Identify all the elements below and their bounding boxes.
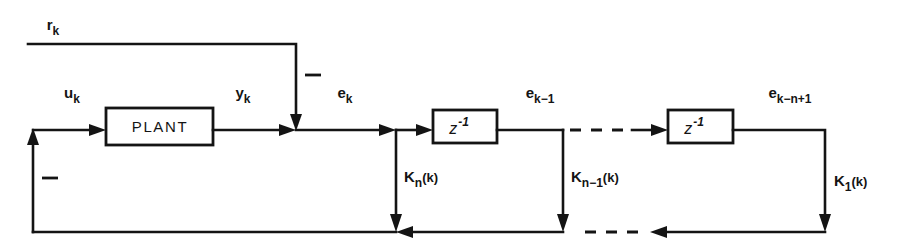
delay-block-1: z-1 [433, 110, 497, 143]
error-arrow-head-b [416, 124, 433, 136]
feedback-rail [33, 226, 825, 238]
signal-label-error: ek [337, 84, 352, 106]
plant-input-arrow-head [89, 124, 106, 136]
gain-tap-n-arrow-head [390, 214, 402, 232]
signal-label-error-delayed-1: ek−1 [526, 84, 555, 106]
delay-2-output-wire [733, 130, 825, 216]
reference-wire [28, 44, 296, 116]
gain-label-1: K1(k) [834, 172, 867, 194]
signal-label-control-input: uk [64, 84, 80, 106]
plant-block-label: PLANT [132, 118, 188, 135]
signal-label-plant-output: yk [235, 84, 250, 106]
gain-tap-1 [819, 214, 831, 232]
gain-label-n: Kn(k) [404, 168, 438, 190]
delay-2-input-arrow-head [651, 124, 668, 136]
plant-block: PLANT [106, 108, 213, 145]
gain-tap-n [390, 130, 402, 232]
reference-arrow-head [290, 114, 302, 131]
error-path [296, 124, 433, 136]
signal-label-reference: rk [47, 16, 60, 38]
gain-label-n-minus-1: Kn−1(k) [571, 168, 619, 190]
signal-label-error-delayed-n: ek−n+1 [768, 84, 811, 106]
input-summing-path [27, 124, 106, 232]
block-diagram-figure: PLANT z-1 z-1 [0, 0, 913, 250]
delay-1-output-path [497, 124, 668, 136]
diagram-canvas: PLANT z-1 z-1 [0, 0, 913, 250]
feedback-rail-arrow-left [396, 226, 413, 238]
plant-output-arrow-head [279, 124, 296, 136]
gain-tap-n-minus-1 [557, 130, 569, 232]
delay-block-2: z-1 [668, 110, 733, 143]
feedback-rail-arrow-right [650, 226, 667, 238]
gain-tap-n-minus-1-arrow-head [557, 214, 569, 232]
plant-output-path [213, 124, 296, 136]
gain-tap-1-arrow-head [819, 214, 831, 232]
error-arrow-head-a [379, 124, 396, 136]
